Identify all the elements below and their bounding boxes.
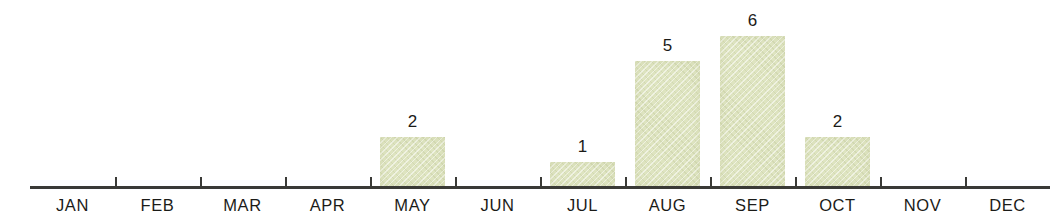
bar-value-aug: 5: [663, 37, 673, 54]
axis-label-feb: FEB: [115, 192, 200, 221]
tick-mark: [795, 177, 797, 187]
tick-mark: [625, 177, 627, 187]
bar-value-may: 2: [408, 113, 418, 130]
tick-mark: [965, 177, 967, 187]
tick-mark: [710, 177, 712, 187]
bar-value-jul: 1: [578, 138, 588, 155]
bars-group: 2 1 5 6 2: [30, 0, 1050, 187]
bar-aug[interactable]: [635, 61, 700, 187]
bar-cell-mar[interactable]: [200, 0, 285, 187]
bar-cell-jul[interactable]: 1: [540, 0, 625, 187]
axis-label-jun: JUN: [455, 192, 540, 221]
bar-cell-apr[interactable]: [285, 0, 370, 187]
tick-mark: [115, 177, 117, 187]
bar-value-sep: 6: [748, 12, 758, 29]
axis-label-sep: SEP: [710, 192, 795, 221]
axis-label-nov: NOV: [880, 192, 965, 221]
tick-mark: [455, 177, 457, 187]
axis-label-jul: JUL: [540, 192, 625, 221]
axis-label-oct: OCT: [795, 192, 880, 221]
tick-mark: [370, 177, 372, 187]
bar-cell-oct[interactable]: 2: [795, 0, 880, 187]
axis-label-aug: AUG: [625, 192, 710, 221]
axis-label-may: MAY: [370, 192, 455, 221]
axis-label-dec: DEC: [965, 192, 1050, 221]
bar-cell-jan[interactable]: [30, 0, 115, 187]
bar-chart: 2 1 5 6 2: [0, 0, 1063, 221]
x-axis-ticks: [30, 177, 1050, 187]
bar-cell-nov[interactable]: [880, 0, 965, 187]
tick-mark: [285, 177, 287, 187]
axis-label-jan: JAN: [30, 192, 115, 221]
tick-mark: [540, 177, 542, 187]
tick-mark: [200, 177, 202, 187]
axis-label-mar: MAR: [200, 192, 285, 221]
axis-label-apr: APR: [285, 192, 370, 221]
bar-cell-aug[interactable]: 5: [625, 0, 710, 187]
bar-cell-feb[interactable]: [115, 0, 200, 187]
plot-area: 2 1 5 6 2: [30, 0, 1050, 187]
bar-cell-jun[interactable]: [455, 0, 540, 187]
bar-cell-sep[interactable]: 6: [710, 0, 795, 187]
tick-mark: [880, 177, 882, 187]
bar-sep[interactable]: [720, 36, 785, 187]
bar-value-oct: 2: [833, 113, 843, 130]
x-axis-labels: JAN FEB MAR APR MAY JUN JUL AUG SEP OCT …: [30, 192, 1050, 221]
bar-cell-may[interactable]: 2: [370, 0, 455, 187]
bar-cell-dec[interactable]: [965, 0, 1050, 187]
